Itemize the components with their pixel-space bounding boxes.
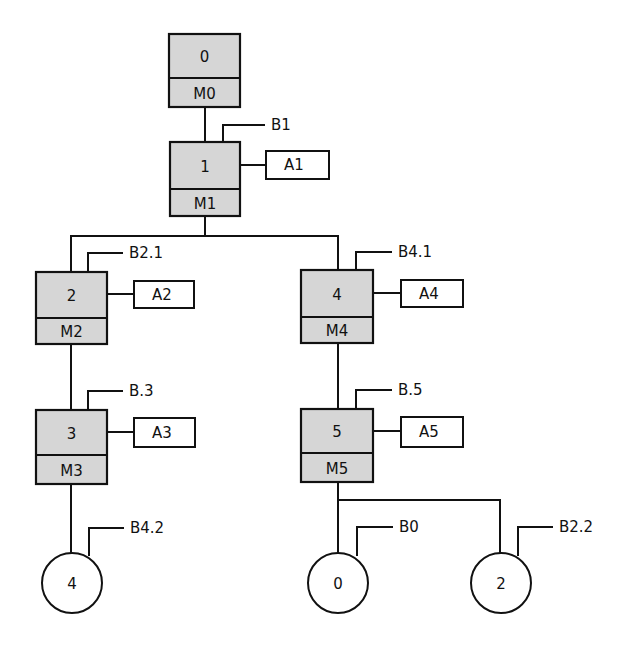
step-number: 5 — [332, 423, 342, 441]
step-marker: M5 — [326, 460, 349, 478]
transition-label: B.3 — [129, 382, 154, 400]
transition-label: B2.1 — [129, 244, 163, 262]
action-label: A4 — [419, 285, 439, 303]
sequence-flow-diagram: B1B2.1B.3B4.1B.5B4.2B0B2.2 A1A2A3A4A5 0M… — [0, 0, 629, 646]
jump-to-step-0: 0 — [308, 553, 368, 613]
step-marker: M1 — [194, 195, 217, 213]
transition-leader-line — [89, 528, 124, 556]
transition-leader-line — [88, 253, 123, 272]
action-a3: A3 — [107, 418, 195, 447]
transition-b4-2: B4.2 — [89, 519, 164, 556]
transition-b-3: B.3 — [88, 382, 154, 410]
transition-label: B.5 — [398, 381, 423, 399]
transition-b1: B1 — [223, 116, 291, 142]
jump-target-label: 4 — [67, 575, 77, 593]
action-a2: A2 — [107, 281, 194, 308]
step-3: 3M3 — [36, 410, 107, 484]
jump-circles: 402 — [42, 553, 531, 613]
transition-leader-line — [356, 252, 392, 270]
step-1: 1M1 — [170, 142, 240, 216]
transition-leader-line — [88, 391, 123, 410]
step-number: 1 — [200, 158, 210, 176]
step-number: 4 — [332, 286, 342, 304]
transition-b-5: B.5 — [356, 381, 423, 409]
step-number: 3 — [67, 425, 77, 443]
action-label: A2 — [152, 286, 172, 304]
transition-label: B4.2 — [130, 519, 164, 537]
step-5: 5M5 — [301, 409, 373, 482]
transition-leader-line — [518, 527, 553, 556]
step-0: 0M0 — [169, 34, 240, 107]
transition-b4-1: B4.1 — [356, 243, 432, 270]
transition-label: B1 — [271, 116, 291, 134]
step-4: 4M4 — [301, 270, 373, 343]
transition-label: B4.1 — [398, 243, 432, 261]
step-boxes: 0M01M12M23M34M45M5 — [36, 34, 373, 484]
step-2: 2M2 — [36, 272, 107, 344]
action-label: A5 — [419, 423, 439, 441]
action-a5: A5 — [373, 417, 463, 447]
action-label: A1 — [284, 156, 304, 174]
step-marker: M2 — [60, 323, 83, 341]
step-marker: M3 — [60, 462, 83, 480]
jump-to-step-4: 4 — [42, 553, 102, 613]
transition-b0: B0 — [357, 518, 419, 556]
transition-leader-line — [356, 390, 392, 409]
step-marker: M4 — [326, 322, 349, 340]
transition-b2-2: B2.2 — [518, 518, 593, 556]
jump-to-step-2: 2 — [471, 553, 531, 613]
action-boxes: A1A2A3A4A5 — [107, 151, 463, 447]
step-marker: M0 — [193, 85, 216, 103]
jump-target-label: 0 — [333, 575, 343, 593]
step-number: 0 — [200, 48, 210, 66]
step-number: 2 — [67, 287, 77, 305]
transition-label: B0 — [399, 518, 419, 536]
action-a1: A1 — [240, 151, 329, 179]
transition-label: B2.2 — [559, 518, 593, 536]
transition-leader-line — [357, 527, 393, 556]
transition-leader-line — [223, 125, 265, 142]
action-label: A3 — [152, 424, 172, 442]
transition-b2-1: B2.1 — [88, 244, 163, 272]
action-a4: A4 — [373, 280, 463, 307]
jump-target-label: 2 — [496, 575, 506, 593]
